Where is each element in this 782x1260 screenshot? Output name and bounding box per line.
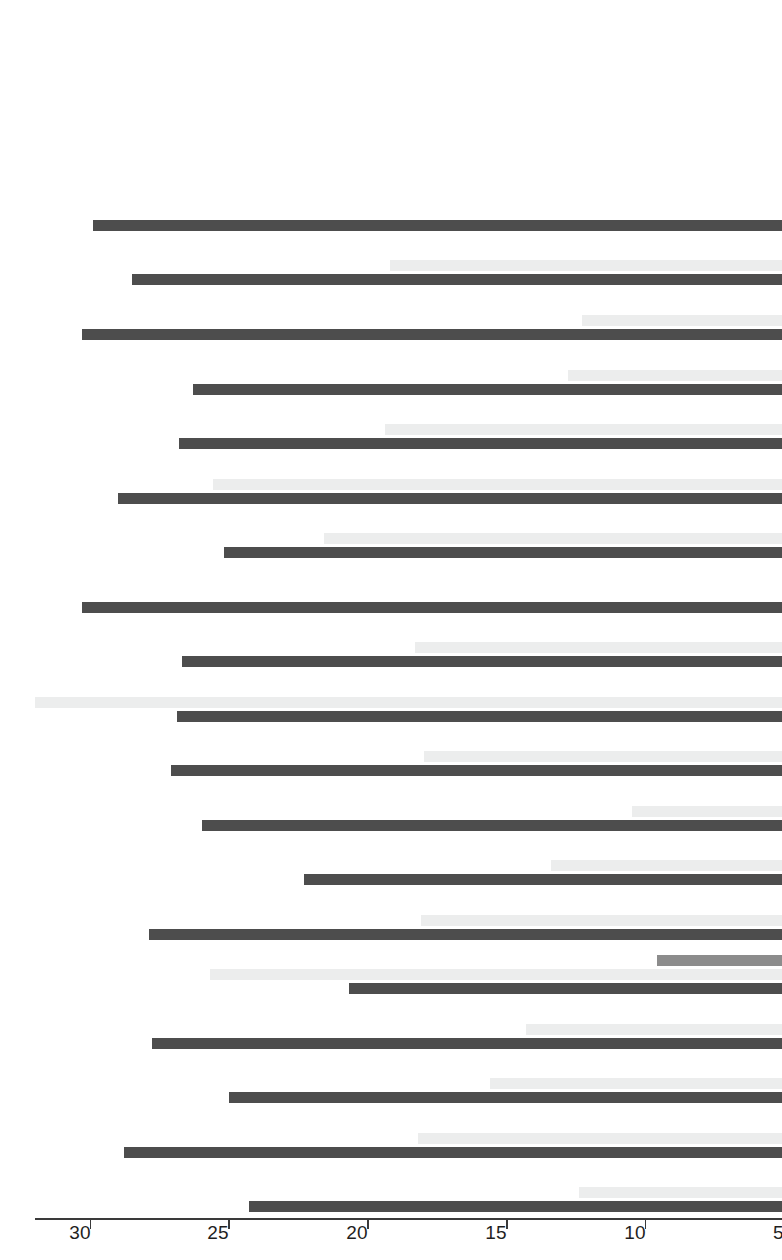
bar-group (35, 293, 782, 348)
bar (210, 969, 782, 980)
bar (632, 806, 782, 817)
axis-tick-label: 30 (56, 1223, 90, 1242)
bar (118, 493, 782, 504)
axis-tick-label: 25 (195, 1223, 229, 1242)
bar (490, 1078, 782, 1089)
bar (424, 751, 782, 762)
bar-group (35, 947, 782, 1002)
bar-group (35, 1056, 782, 1111)
bar (385, 424, 782, 435)
axis-tick-label: 5 (750, 1223, 782, 1242)
bar (526, 1024, 782, 1035)
bar-group (35, 348, 782, 403)
bar (171, 765, 782, 776)
bar-group (35, 184, 782, 239)
bar (224, 547, 782, 558)
bar-group (35, 402, 782, 457)
bar (82, 329, 782, 340)
bar-group (35, 893, 782, 948)
bar-groups (35, 184, 782, 1220)
bar (390, 260, 782, 271)
axis-tick-label: 20 (334, 1223, 368, 1242)
bar-group (35, 457, 782, 512)
bar-group (35, 620, 782, 675)
bar (149, 929, 782, 940)
bar (415, 642, 782, 653)
bar (124, 1147, 782, 1158)
axis-tick (228, 1220, 230, 1229)
bar-group (35, 729, 782, 784)
bar (418, 1133, 782, 1144)
bar (249, 1201, 782, 1212)
bar (193, 384, 782, 395)
bar (229, 1092, 782, 1103)
bar-group (35, 784, 782, 839)
bar (568, 370, 782, 381)
axis-tick-label: 10 (611, 1223, 645, 1242)
bar-group (35, 511, 782, 566)
bar (304, 874, 782, 885)
bar-group (35, 838, 782, 893)
bar (93, 220, 782, 231)
chart-canvas: 051015202530 ArgentinaBoliviaChileCosta … (0, 0, 782, 1260)
plot-area: 051015202530 (35, 184, 782, 1220)
bar (132, 274, 782, 285)
bar (82, 602, 782, 613)
bar (179, 438, 782, 449)
bar-group (35, 566, 782, 621)
bar (421, 915, 782, 926)
bar (657, 955, 782, 966)
bar (177, 711, 782, 722)
bar (202, 820, 782, 831)
bar (324, 533, 782, 544)
bar-group (35, 1002, 782, 1057)
bar (213, 479, 782, 490)
bar-group (35, 675, 782, 730)
bar (551, 860, 782, 871)
bar-group (35, 239, 782, 294)
grouped-bar-chart: 051015202530 ArgentinaBoliviaChileCosta … (21, 40, 761, 1220)
bar (182, 656, 782, 667)
bar (579, 1187, 782, 1198)
bar-group (35, 1165, 782, 1220)
bar (152, 1038, 782, 1049)
bar-group (35, 1111, 782, 1166)
bar (35, 697, 782, 708)
bar (349, 983, 782, 994)
axis-tick-label: 15 (472, 1223, 506, 1242)
bar (582, 315, 782, 326)
